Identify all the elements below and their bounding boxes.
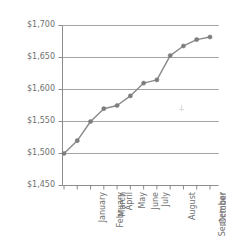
- data-point-marker: [181, 44, 185, 48]
- data-point-marker: [62, 151, 66, 155]
- x-axis-tick-label: May: [137, 192, 146, 209]
- y-axis-tick-label: $1,700: [9, 20, 55, 29]
- y-axis-tick-label: $1,450: [9, 180, 55, 189]
- axis-lines-group: [63, 26, 219, 186]
- data-point-marker: [142, 81, 146, 85]
- y-axis-tick-label: $1,550: [9, 116, 55, 125]
- x-axis-tick-label: April: [126, 192, 135, 210]
- y-tick-marks-group: [59, 26, 63, 186]
- series-line: [64, 37, 210, 153]
- data-point-marker: [195, 37, 199, 41]
- data-point-marker: [208, 35, 212, 39]
- x-tick-marks-group: [64, 186, 210, 190]
- data-point-marker: [88, 119, 92, 123]
- data-point-marker: [115, 103, 119, 107]
- y-axis-tick-label: $1,500: [9, 148, 55, 157]
- x-axis-tick-label: July: [162, 192, 171, 206]
- line-chart: $1,700$1,650$1,600$1,550$1,500$1,450 Jan…: [0, 0, 226, 244]
- y-axis-tick-label: $1,600: [9, 84, 55, 93]
- y-axis-tick-label: $1,650: [9, 52, 55, 61]
- text-cursor-artifact: [179, 105, 185, 112]
- x-axis-tick-label: August: [188, 192, 197, 220]
- x-axis-tick-label: June: [151, 192, 160, 209]
- data-point-marker: [128, 94, 132, 98]
- data-point-markers-group: [62, 35, 212, 156]
- gridlines-group: [63, 26, 219, 154]
- data-point-marker: [102, 107, 106, 111]
- data-point-marker: [168, 53, 172, 57]
- data-point-marker: [155, 78, 159, 82]
- x-axis-tick-label: January: [98, 192, 107, 222]
- data-point-marker: [75, 139, 79, 143]
- x-axis-tick-label: October: [219, 192, 226, 224]
